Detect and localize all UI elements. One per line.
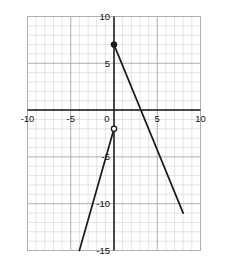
x-tick-label: 10: [195, 113, 206, 124]
y-tick-label: -10: [96, 198, 110, 209]
y-tick-label: -15: [96, 245, 110, 256]
y-tick-label: 5: [105, 58, 110, 69]
x-tick-label: 0: [104, 113, 109, 124]
x-tick-label: -5: [67, 113, 75, 124]
graph-canvas: -10-50510 105-5-10-15: [0, 0, 226, 269]
x-axis-tick-labels: -10-50510: [21, 113, 206, 124]
x-tick-label: 5: [155, 113, 160, 124]
y-axis-tick-labels: 105-5-10-15: [96, 11, 110, 256]
y-tick-label: 10: [99, 11, 110, 22]
open-point: [111, 126, 116, 131]
coordinate-graph: -10-50510 105-5-10-15: [0, 0, 226, 269]
y-tick-label: -5: [102, 151, 110, 162]
x-tick-label: -10: [21, 113, 35, 124]
closed-point: [111, 42, 117, 48]
